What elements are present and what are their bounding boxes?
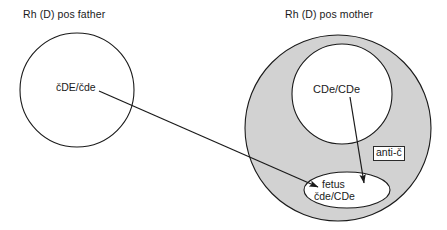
rh-incompatibility-diagram: Rh (D) pos father Rh (D) pos mother čDE/… <box>0 0 447 230</box>
mother-genotype-label: CDe/CDe <box>313 83 360 96</box>
father-genotype-label: čDE/čde <box>56 81 96 93</box>
fetus-genotype-label: čde/CDe <box>314 190 355 202</box>
father-title-label: Rh (D) pos father <box>23 8 105 20</box>
fetus-label-group: fetus čde/CDe <box>322 178 355 203</box>
mother-title-label: Rh (D) pos mother <box>285 8 373 20</box>
anti-c-antibody-label: anti-č <box>373 146 405 161</box>
fetus-label: fetus <box>322 178 355 190</box>
diagram-canvas <box>0 0 447 230</box>
